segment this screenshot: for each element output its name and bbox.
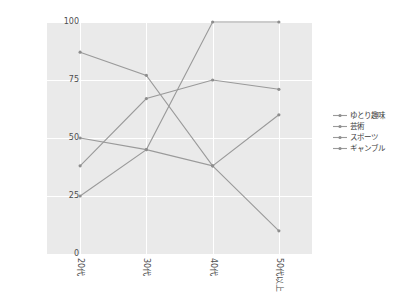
- legend-item: 芸術: [333, 121, 385, 132]
- plot-area: [47, 22, 312, 254]
- series-marker: [277, 229, 280, 232]
- series-marker: [277, 20, 280, 23]
- x-axis-tick-label: 40代: [209, 258, 217, 276]
- legend-item-label: ギャンブル: [350, 145, 385, 153]
- chart-figure: 0255075100 20代30代40代50代以上 ゆとり趣味芸術スポーツギャン…: [0, 0, 396, 303]
- legend-key-icon: [333, 133, 347, 142]
- legend-item-label: 芸術: [350, 123, 364, 131]
- x-axis-tick-label: 50代以上: [275, 258, 283, 292]
- legend-item-label: スポーツ: [350, 134, 378, 142]
- series-marker: [277, 113, 280, 116]
- x-axis-tick-label: 20代: [76, 258, 84, 276]
- legend-item: ギャンブル: [333, 143, 385, 154]
- legend-item-label: ゆとり趣味: [350, 112, 385, 120]
- legend-key-icon: [333, 144, 347, 153]
- series-marker: [79, 136, 82, 139]
- series-group: [47, 22, 312, 254]
- y-axis-tick-label: 0: [39, 250, 79, 258]
- series-line: [80, 115, 279, 166]
- legend-item: ゆとり趣味: [333, 110, 385, 121]
- series-line: [80, 22, 279, 196]
- y-axis-tick-label: 50: [39, 134, 79, 142]
- legend-key-icon: [333, 111, 347, 120]
- series-marker: [211, 78, 214, 81]
- series-marker: [277, 88, 280, 91]
- series-marker: [145, 148, 148, 151]
- series-line: [80, 80, 279, 166]
- series-marker: [211, 164, 214, 167]
- series-marker: [79, 194, 82, 197]
- series-marker: [79, 164, 82, 167]
- series-marker: [211, 20, 214, 23]
- legend-key-icon: [333, 122, 347, 131]
- series-line: [80, 52, 279, 231]
- y-axis-tick-label: 25: [39, 192, 79, 200]
- series-marker: [79, 51, 82, 54]
- series-marker: [145, 74, 148, 77]
- gridline-horizontal: [47, 254, 312, 255]
- y-axis-tick-label: 75: [39, 76, 79, 84]
- x-axis-tick-label: 30代: [142, 258, 150, 276]
- legend-item: スポーツ: [333, 132, 385, 143]
- legend: ゆとり趣味芸術スポーツギャンブル: [333, 110, 385, 154]
- series-marker: [145, 97, 148, 100]
- y-axis-tick-label: 100: [39, 18, 79, 26]
